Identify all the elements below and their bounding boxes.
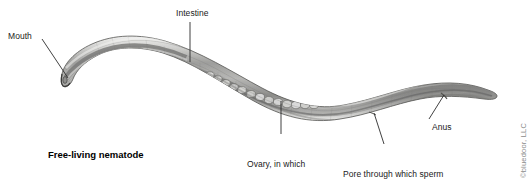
- nematode-figure: Mouth Intestine Ovary, in which eggs dev…: [0, 0, 530, 185]
- figure-caption: Free-living nematode (Rhabdidis): [48, 125, 144, 185]
- label-anus: Anus: [432, 122, 452, 133]
- label-mouth: Mouth: [8, 31, 32, 42]
- copyright-notice: ©bluedoor, LLC: [519, 123, 528, 178]
- label-pore-line1: Pore through which sperm: [343, 169, 451, 180]
- nematode-body: [61, 36, 497, 124]
- label-ovary-line1: Ovary, in which: [247, 159, 305, 170]
- label-genital-pore: Pore through which sperm enter and eggs …: [343, 148, 451, 185]
- label-intestine: Intestine: [176, 8, 209, 19]
- leader-line-pore: [374, 113, 384, 144]
- leader-line-mouth: [42, 39, 68, 78]
- caption-common-name: Free-living nematode: [48, 149, 144, 161]
- label-ovary: Ovary, in which eggs develop: [247, 138, 305, 185]
- leader-line-anus: [429, 95, 444, 119]
